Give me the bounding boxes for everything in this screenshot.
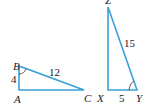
vertex-z-label: Z bbox=[105, 0, 112, 6]
side-xy-length: 5 bbox=[119, 92, 125, 104]
side-yz-length: 15 bbox=[124, 37, 136, 49]
angle-y-arc bbox=[129, 81, 134, 90]
vertex-y-label: Y bbox=[136, 92, 144, 104]
right-triangles-diagram: B A C 4 12 Z X Y 5 15 bbox=[0, 0, 146, 108]
angle-b-arc bbox=[19, 69, 26, 74]
vertex-x-label: X bbox=[96, 92, 105, 104]
side-ab-length: 4 bbox=[11, 73, 17, 85]
vertex-c-label: C bbox=[84, 92, 92, 104]
vertex-a-label: A bbox=[13, 93, 21, 105]
vertex-b-label: B bbox=[13, 60, 20, 72]
side-bc-length: 12 bbox=[49, 66, 60, 78]
